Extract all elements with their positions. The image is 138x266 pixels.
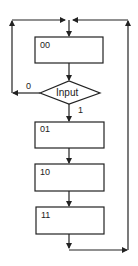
branch-label-0: 0 [26, 81, 31, 91]
flowchart-canvas [0, 0, 138, 266]
state-label-00: 00 [40, 40, 50, 50]
state-label-01: 01 [40, 124, 50, 134]
state-label-10: 10 [40, 167, 50, 177]
branch-label-1: 1 [78, 105, 83, 115]
state-label-11: 11 [41, 210, 50, 220]
decision-label: Input [56, 87, 78, 98]
